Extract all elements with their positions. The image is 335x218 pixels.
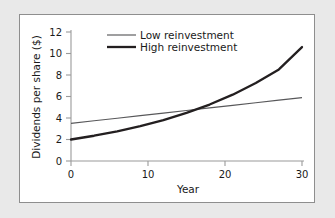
x-axis-title: Year bbox=[176, 183, 200, 195]
line-chart: Dividends per share ($) 0 2 4 6 8 10 12 … bbox=[0, 0, 335, 218]
y-tick-label-12: 12 bbox=[49, 27, 62, 38]
legend-label-low-reinvestment: Low reinvestment bbox=[140, 29, 234, 41]
y-tick-label-8: 8 bbox=[56, 70, 62, 81]
x-tick-group: 0 10 20 30 bbox=[68, 161, 309, 180]
figure-canvas: Dividends per share ($) 0 2 4 6 8 10 12 … bbox=[0, 0, 335, 218]
legend: Low reinvestment High reinvestment bbox=[107, 29, 237, 53]
y-tick-label-0: 0 bbox=[56, 156, 62, 167]
y-tick-group: 0 2 4 6 8 10 12 bbox=[49, 27, 71, 167]
y-tick-label-2: 2 bbox=[56, 134, 62, 145]
x-tick-label-0: 0 bbox=[68, 169, 74, 180]
x-tick-label-10: 10 bbox=[142, 169, 155, 180]
x-tick-label-30: 30 bbox=[296, 169, 309, 180]
series-line-high-reinvestment bbox=[71, 47, 302, 139]
y-tick-label-6: 6 bbox=[56, 91, 62, 102]
y-tick-label-10: 10 bbox=[49, 48, 62, 59]
legend-label-high-reinvestment: High reinvestment bbox=[140, 41, 237, 53]
series-line-low-reinvestment bbox=[71, 98, 302, 124]
x-tick-label-20: 20 bbox=[219, 169, 232, 180]
y-tick-label-4: 4 bbox=[56, 113, 62, 124]
y-axis-title: Dividends per share ($) bbox=[30, 35, 42, 158]
